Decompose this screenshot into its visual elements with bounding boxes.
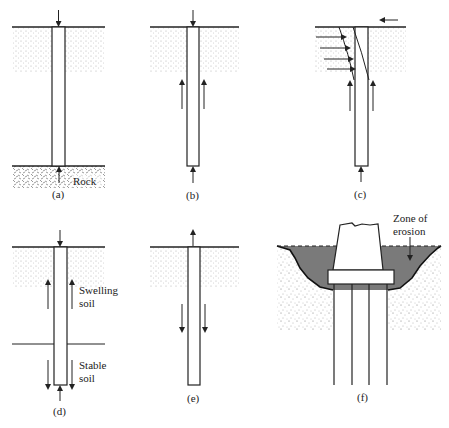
pile (52, 27, 65, 166)
caption-b: (b) (186, 189, 199, 202)
panel-c: (c) (315, 20, 406, 201)
pier (333, 223, 383, 270)
caption-e: (e) (187, 392, 200, 405)
pile-load-diagram: Rock (a) (b) (c) (0, 0, 449, 428)
label-swelling-soil: Swelling soil (79, 284, 121, 309)
caption-a: (a) (52, 188, 65, 201)
pile (187, 27, 199, 166)
panel-a: Rock (a) (12, 10, 105, 201)
label-rock: Rock (73, 175, 97, 187)
panel-e: (e) (150, 232, 239, 405)
pile-cap (328, 270, 394, 284)
caption-c: (c) (354, 188, 367, 201)
caption-f: (f) (357, 391, 368, 404)
label-zone-of-erosion: Zone of erosion (393, 212, 430, 237)
pile (188, 247, 200, 385)
panel-d: Swelling soil Stable soil (d) (12, 230, 121, 418)
pile (54, 247, 67, 385)
pile (355, 27, 368, 166)
label-stable-soil: Stable soil (79, 359, 109, 384)
panel-b: (b) (150, 10, 239, 202)
caption-d: (d) (53, 405, 66, 418)
panel-f: Zone of erosion (f) (277, 212, 441, 404)
